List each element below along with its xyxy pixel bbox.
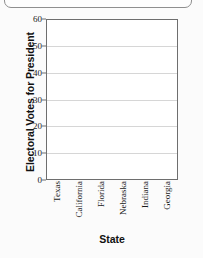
y-axis-tick-label: 10 [12,148,42,158]
x-axis-tick-label: Indiana [134,181,156,227]
y-axis-tick-label: 0 [12,175,42,185]
y-axis-tick-label: 20 [12,121,42,131]
x-axis-title: State [46,233,178,245]
y-axis-tick-label: 30 [12,95,42,105]
y-axis-tick-label: 40 [12,68,42,78]
chart-figure: Electoral Votes for President 0102030405… [0,0,203,258]
y-axis-tick-label: 60 [12,14,42,24]
x-axis-tick-label-text: Georgia [162,181,172,210]
x-axis-tick-label: Texas [46,181,68,227]
x-axis-tick-label: Florida [90,181,112,227]
x-axis-tick-label-text: Florida [96,181,106,207]
gridline [47,126,177,127]
x-axis-tick-label-text: Nebraska [118,181,128,215]
x-axis-tick-label: Nebraska [112,181,134,227]
x-axis-tick-label: California [68,181,90,227]
gridline [47,73,177,74]
gridline-group [47,20,177,179]
gridline [47,153,177,154]
plot-area [46,19,178,180]
gridline [47,100,177,101]
x-axis-tick-labels: TexasCaliforniaFloridaNebraskaIndianaGeo… [46,181,178,227]
x-axis-tick-label-text: California [74,181,84,218]
x-axis-tick-label: Georgia [156,181,178,227]
gridline [47,46,177,47]
x-axis-tick-label-text: Indiana [140,181,150,208]
y-axis-tick-label: 50 [12,41,42,51]
x-axis-tick-label-text: Texas [52,181,62,202]
